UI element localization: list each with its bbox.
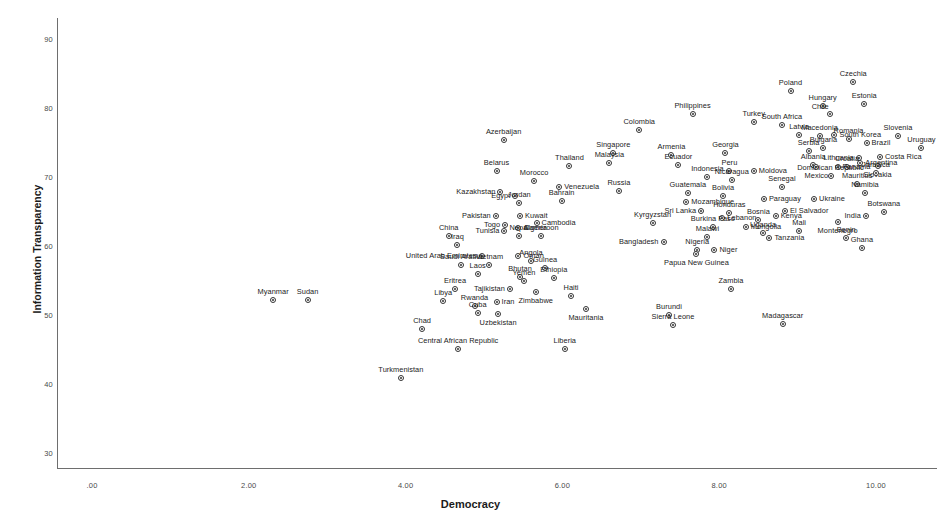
data-point-label: Tajikistan	[474, 285, 505, 293]
data-point-label: Uganda	[750, 221, 776, 229]
data-point-marker	[559, 198, 565, 204]
data-point-label: Libya	[434, 289, 452, 297]
data-point-marker	[675, 162, 681, 168]
data-point-marker	[475, 310, 481, 316]
data-point-label: Jordan	[508, 191, 531, 199]
x-tick-label: 2.00	[241, 481, 256, 490]
data-point-label: Sierra Leone	[651, 313, 694, 321]
data-point-marker	[305, 297, 311, 303]
data-point-marker	[685, 190, 691, 196]
data-point-marker	[827, 111, 833, 117]
data-point-marker	[846, 136, 852, 142]
data-point-label: Belarus	[484, 159, 509, 167]
data-point-marker	[501, 228, 507, 234]
data-point-label: Iran	[502, 298, 515, 306]
data-point-label: Ethiopia	[540, 266, 567, 274]
data-point-label: Ukraine	[819, 195, 845, 203]
x-tick-label: 6.00	[555, 481, 570, 490]
x-tick-label: 10.00	[866, 481, 886, 490]
data-point-marker	[683, 199, 689, 205]
data-point-label: South Africa	[762, 113, 802, 121]
data-point-marker	[562, 346, 568, 352]
data-point-marker	[751, 119, 757, 125]
data-point-label: Sudan	[297, 288, 319, 296]
data-point-label: Nigeria	[685, 238, 709, 246]
data-point-label: Papua New Guinea	[664, 259, 729, 267]
data-point-label: Mauritius	[842, 172, 872, 180]
data-point-label: Jamaica	[862, 161, 890, 169]
data-point-marker	[486, 262, 492, 268]
scatter-plot-figure: 30405060708090 Information Transparency …	[0, 0, 941, 528]
data-point-label: Turkey	[742, 110, 765, 118]
data-point-marker	[455, 346, 461, 352]
data-point-label: Malaysia	[595, 151, 625, 159]
data-point-label: Mauritania	[568, 314, 603, 322]
data-point-marker	[861, 101, 867, 107]
data-point-marker	[766, 235, 772, 241]
data-point-label: Cameroon	[524, 224, 559, 232]
data-point-marker	[820, 145, 826, 151]
data-point-marker	[873, 170, 879, 176]
data-point-label: Estonia	[852, 92, 877, 100]
data-point-label: Ecuador	[664, 153, 692, 161]
data-point-marker	[850, 79, 856, 85]
data-point-marker	[779, 122, 785, 128]
data-point-label: Armenia	[657, 143, 685, 151]
data-point-label: Mexico	[805, 172, 829, 180]
data-point-label: Bangladesh	[619, 238, 659, 246]
data-point-marker	[811, 196, 817, 202]
data-point-label: Yemen	[512, 269, 535, 277]
data-point-marker	[796, 132, 802, 138]
data-point-marker	[918, 145, 924, 151]
data-point-label: Burkina Faso	[691, 215, 735, 223]
data-point-label: Colombia	[623, 118, 655, 126]
x-tick-label: .00	[86, 481, 97, 490]
data-point-label: Morocco	[520, 169, 549, 177]
data-point-marker	[828, 173, 834, 179]
data-point-label: Burundi	[656, 303, 682, 311]
data-point-marker	[533, 289, 539, 295]
data-point-label: Niger	[719, 246, 737, 254]
data-point-marker	[501, 137, 507, 143]
data-point-marker	[475, 271, 481, 277]
data-point-label: Kyrgyzstan	[634, 211, 671, 219]
data-point-marker	[843, 235, 849, 241]
data-point-marker	[650, 220, 656, 226]
data-point-marker	[863, 213, 869, 219]
x-tick-label: 4.00	[398, 481, 413, 490]
data-point-marker	[440, 298, 446, 304]
data-point-label: China	[439, 224, 459, 232]
data-point-marker	[661, 239, 667, 245]
data-point-marker	[493, 213, 499, 219]
data-point-marker	[538, 233, 544, 239]
data-point-label: Mali	[792, 219, 806, 227]
data-point-label: Tanzania	[774, 234, 804, 242]
data-point-marker	[779, 184, 785, 190]
data-point-label: Nicaragua	[715, 168, 749, 176]
data-point-label: Vietnam	[476, 253, 503, 261]
data-point-label: Bolivia	[712, 184, 734, 192]
data-point-marker	[531, 178, 537, 184]
data-point-label: Albania	[801, 153, 826, 161]
data-point-label: Georgia	[712, 141, 739, 149]
data-point-label: Hungary	[809, 94, 837, 102]
data-point-marker	[693, 251, 699, 257]
data-point-label: Romania	[834, 127, 864, 135]
data-point-marker	[419, 326, 425, 332]
data-point-label: Bahrain	[549, 189, 575, 197]
data-point-marker	[773, 213, 779, 219]
data-point-marker	[895, 133, 901, 139]
data-point-marker	[454, 242, 460, 248]
data-point-label: Benin	[837, 226, 856, 234]
data-point-marker	[780, 321, 786, 327]
data-point-marker	[398, 375, 404, 381]
data-point-label: India	[845, 212, 861, 220]
data-point-label: Guinea	[533, 256, 557, 264]
data-point-marker	[881, 209, 887, 215]
data-point-label: Madagascar	[762, 312, 803, 320]
data-point-marker	[864, 140, 870, 146]
data-point-label: Kazakhstan	[456, 188, 495, 196]
data-point-label: Guatemala	[670, 181, 707, 189]
data-point-marker	[568, 293, 574, 299]
data-point-label: Brazil	[872, 139, 891, 147]
